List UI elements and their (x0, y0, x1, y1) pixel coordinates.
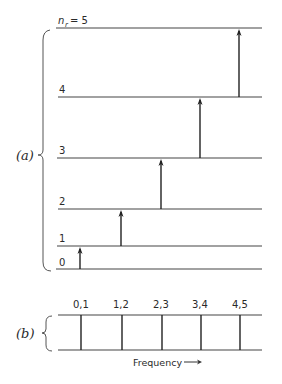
level-label-1: 1 (59, 233, 65, 244)
level-label-4: 4 (59, 84, 65, 95)
arrow-3-4 (198, 98, 203, 158)
part-b-label: (b) (16, 326, 34, 341)
frequency-axis-label: Frequency (133, 357, 182, 368)
transition-arrows (78, 29, 242, 269)
level-symbol: n (58, 15, 64, 26)
arrow-2-3 (159, 159, 164, 209)
spectral-label-4-5: 4,5 (232, 299, 248, 310)
level-value-5: = 5 (70, 15, 88, 26)
level-label-2: 2 (59, 196, 65, 207)
level-label-5: n r = 5 (58, 15, 88, 29)
spectral-lines (81, 315, 240, 350)
frequency-arrow-icon (184, 360, 202, 365)
spectral-label-1-2: 1,2 (113, 299, 129, 310)
part-a-label: (a) (16, 148, 34, 163)
level-label-0: 0 (59, 257, 65, 268)
spectral-label-3-4: 3,4 (192, 299, 208, 310)
level-label-3: 3 (59, 145, 65, 156)
spectral-label-0-1: 0,1 (73, 299, 89, 310)
energy-levels (56, 28, 262, 269)
arrow-0-1 (78, 247, 83, 269)
spectral-label-2-3: 2,3 (153, 299, 169, 310)
arrow-4-5 (237, 29, 242, 97)
brace-b (42, 316, 52, 351)
brace-a (38, 30, 51, 271)
arrow-1-2 (119, 210, 124, 246)
energy-level-diagram: (a) 0 1 2 3 4 n r = 5 (0, 0, 282, 384)
